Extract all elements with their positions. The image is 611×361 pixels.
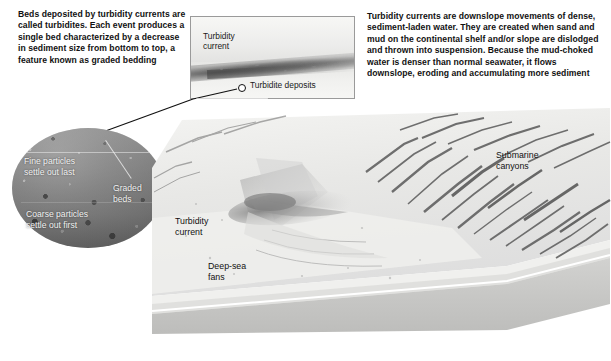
caption-right-turbidity-currents: Turbidity currents are downslope movemen… [367,11,605,79]
label-fine-particles: Fine particles settle out last [24,156,75,177]
label-inset-turbidite-deposits: Turbidite deposits [250,80,316,90]
label-coarse-particles: Coarse particles settle out first [26,209,88,230]
label-submarine-canyons: Submarine canyons [496,150,539,172]
label-deep-sea-fans: Deep-sea fans [208,261,246,283]
bed-boundary-line [21,152,155,153]
inset-speck [255,64,259,66]
leader-node-turbidite-deposits [238,84,246,92]
label-graded-beds: Graded beds [113,183,142,204]
caption-left-graded-bedding: Beds deposited by turbidity currents are… [18,9,188,66]
seafloor-block-diagram [152,108,611,334]
figure-turbidity-currents: Beds deposited by turbidity currents are… [0,0,611,361]
label-main-turbidity-current: Turbidity current [175,216,208,238]
label-inset-turbidity-current: Turbidity current [203,31,235,52]
inset-speck [312,66,316,68]
